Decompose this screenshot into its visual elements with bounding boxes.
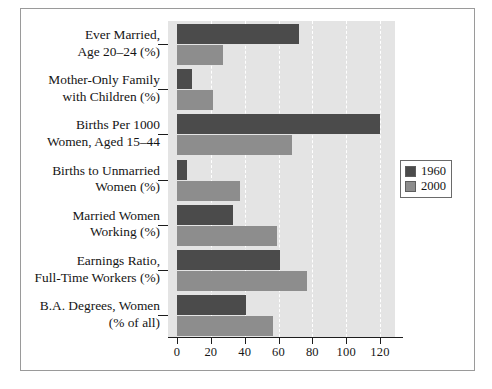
bar-1960 <box>177 24 299 44</box>
category-tick-dash <box>158 134 168 135</box>
category-labels: Ever Married,Age 20–24 (%)Mother-Only Fa… <box>0 0 160 337</box>
bar-group <box>168 205 395 246</box>
legend-swatch-1960 <box>405 166 416 177</box>
bar-group <box>168 295 395 336</box>
bar-rows <box>168 21 395 337</box>
category-tick-dash <box>158 270 168 271</box>
category-label-line: Married Women <box>0 208 160 225</box>
x-axis-line <box>168 337 403 338</box>
category-tick-dash <box>158 225 168 226</box>
category-label: Births to UnmarriedWomen (%) <box>0 163 160 196</box>
x-tick <box>245 337 246 344</box>
legend-label-1960: 1960 <box>421 164 446 179</box>
bar-1960 <box>177 69 192 89</box>
legend-item: 2000 <box>405 179 446 194</box>
category-label: Mother-Only Familywith Children (%) <box>0 72 160 105</box>
x-tick <box>380 337 381 344</box>
category-label-line: Births Per 1000 <box>0 117 160 134</box>
x-tick <box>312 337 313 344</box>
bar-group <box>168 69 395 110</box>
category-tick-dash <box>158 44 168 45</box>
x-tick <box>211 337 212 344</box>
category-label-line: (% of all) <box>0 315 160 332</box>
bar-2000 <box>177 45 223 65</box>
bar-group <box>168 114 395 155</box>
category-label-line: Age 20–24 (%) <box>0 44 160 61</box>
chart-figure: Ever Married,Age 20–24 (%)Mother-Only Fa… <box>0 0 492 389</box>
bar-group <box>168 24 395 65</box>
bar-group <box>168 160 395 201</box>
category-tick-dash <box>158 89 168 90</box>
category-label-line: Full-Time Workers (%) <box>0 270 160 287</box>
category-label-line: B.A. Degrees, Women <box>0 298 160 315</box>
x-tick-label: 120 <box>360 345 400 360</box>
bar-1960 <box>177 114 380 134</box>
category-label: Married WomenWorking (%) <box>0 208 160 241</box>
plot-area <box>168 21 395 337</box>
category-label: Earnings Ratio,Full-Time Workers (%) <box>0 253 160 286</box>
chart-legend: 1960 2000 <box>400 160 452 198</box>
bar-1960 <box>177 250 280 270</box>
category-label-line: Women (%) <box>0 179 160 196</box>
category-label: B.A. Degrees, Women(% of all) <box>0 298 160 331</box>
bar-group <box>168 250 395 291</box>
legend-swatch-2000 <box>405 181 416 192</box>
bar-2000 <box>177 316 273 336</box>
category-label-line: Ever Married, <box>0 27 160 44</box>
category-tick-dash <box>158 315 168 316</box>
x-tick <box>346 337 347 344</box>
bar-1960 <box>177 295 246 315</box>
category-label-line: with Children (%) <box>0 89 160 106</box>
category-label-line: Births to Unmarried <box>0 163 160 180</box>
x-tick <box>177 337 178 344</box>
category-tick-dash <box>158 180 168 181</box>
bar-1960 <box>177 205 233 225</box>
category-label-line: Working (%) <box>0 224 160 241</box>
category-label: Births Per 1000Women, Aged 15–44 <box>0 117 160 150</box>
x-tick <box>279 337 280 344</box>
legend-label-2000: 2000 <box>421 179 446 194</box>
category-label-line: Earnings Ratio, <box>0 253 160 270</box>
category-label-line: Mother-Only Family <box>0 72 160 89</box>
bar-2000 <box>177 271 307 291</box>
bar-1960 <box>177 160 187 180</box>
bar-2000 <box>177 90 213 110</box>
legend-item: 1960 <box>405 164 446 179</box>
bar-2000 <box>177 226 277 246</box>
category-label: Ever Married,Age 20–24 (%) <box>0 27 160 60</box>
category-label-line: Women, Aged 15–44 <box>0 134 160 151</box>
bar-2000 <box>177 181 240 201</box>
bar-2000 <box>177 135 292 155</box>
